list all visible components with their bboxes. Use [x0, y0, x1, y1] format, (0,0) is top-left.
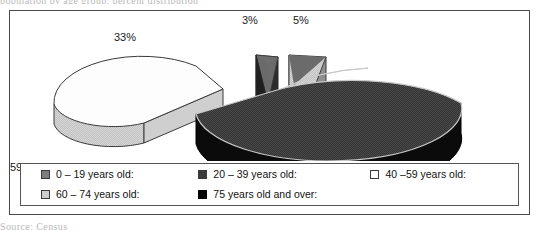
legend-label-75-up: 75 years old and over:: [213, 189, 317, 200]
scan-artifact-bottom-text: Source: Census: [0, 221, 543, 230]
scan-artifact-top-text: population by age group, percent distrib…: [0, 0, 543, 4]
legend-item-40-59[interactable]: 40 –59 years old:: [370, 169, 518, 180]
pie-chart-plot-area: 33% 3% 5% 59%: [10, 11, 529, 161]
legend-label-40-59: 40 –59 years old:: [385, 169, 466, 180]
legend-label-0-19: 0 – 19 years old:: [56, 169, 134, 180]
legend-swatch-20-39: [198, 170, 207, 179]
pie-slice-75-up: [196, 68, 462, 161]
legend-label-60-74: 60 – 74 years old:: [56, 189, 139, 200]
legend-swatch-40-59: [370, 170, 379, 179]
chart-legend: 0 – 19 years old: 20 – 39 years old: 40 …: [20, 163, 519, 206]
pie-label-20-39: 5%: [293, 14, 309, 26]
legend-row: 0 – 19 years old: 20 – 39 years old: 40 …: [21, 164, 518, 184]
legend-item-60-74[interactable]: 60 – 74 years old:: [41, 189, 198, 200]
pie-chart-svg: [10, 11, 529, 161]
legend-row: 60 – 74 years old: 75 years old and over…: [21, 184, 518, 204]
legend-label-20-39: 20 – 39 years old:: [213, 169, 296, 180]
legend-item-20-39[interactable]: 20 – 39 years old:: [198, 169, 370, 180]
legend-item-75-up[interactable]: 75 years old and over:: [198, 189, 370, 200]
legend-swatch-0-19: [41, 170, 50, 179]
legend-swatch-60-74: [41, 190, 50, 199]
legend-item-0-19[interactable]: 0 – 19 years old:: [41, 169, 198, 180]
pie-label-0-19: 3%: [242, 14, 258, 26]
figure-frame: 33% 3% 5% 59% 0 – 19 years old: 20 – 39 …: [9, 10, 530, 215]
legend-swatch-75-up: [198, 190, 207, 199]
pie-label-40-59: 33%: [114, 31, 136, 43]
